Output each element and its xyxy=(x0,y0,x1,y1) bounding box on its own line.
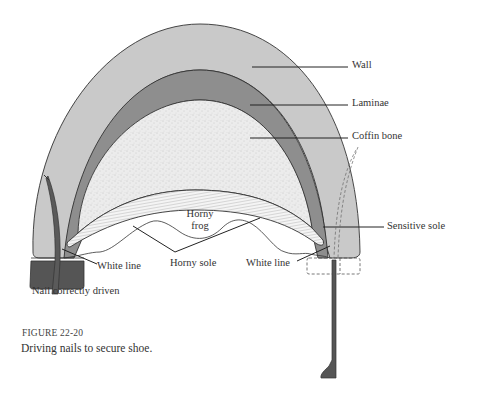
label-coffin-bone: Coffin bone xyxy=(352,131,402,142)
figure-caption: Driving nails to secure shoe. xyxy=(21,342,152,354)
label-horny-sole: Horny sole xyxy=(170,258,216,269)
figure-number: FIGURE 22-20 xyxy=(22,328,83,338)
label-nail-correctly-driven: Nail correctly driven xyxy=(32,286,119,297)
figure-number-prefix: FIGURE xyxy=(22,328,58,338)
label-wall: Wall xyxy=(352,60,372,71)
label-white-line-right: White line xyxy=(246,258,290,269)
figure-number-value: 22-20 xyxy=(60,328,83,338)
label-horny-frog-line1: Horny xyxy=(182,208,218,220)
label-white-line-left: White line xyxy=(97,261,141,272)
label-sensitive-sole: Sensitive sole xyxy=(387,221,445,232)
label-laminae: Laminae xyxy=(352,98,389,109)
right-nail xyxy=(321,260,336,378)
hoof-cross-section-diagram xyxy=(0,0,480,399)
label-horny-frog: Horny frog xyxy=(182,208,218,232)
label-horny-frog-line2: frog xyxy=(182,220,218,232)
